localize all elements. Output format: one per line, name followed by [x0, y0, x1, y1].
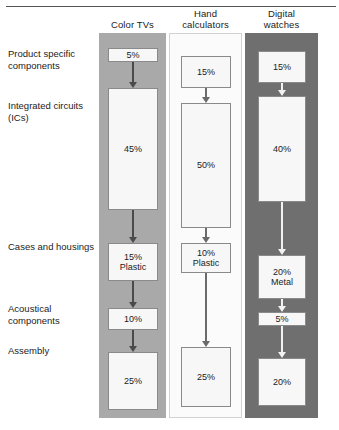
node-percentage-label: 20% — [273, 267, 291, 278]
column-header-color-tvs: Color TVs — [99, 19, 166, 30]
arrow-shaft — [281, 326, 283, 352]
node-percentage-label: 15% — [124, 252, 142, 263]
flow-node-hand-calculators-0: 15% — [181, 56, 231, 88]
arrow-shaft — [281, 299, 283, 306]
arrow-shaft — [132, 281, 134, 302]
flow-node-digital-watches-4: 20% — [258, 358, 306, 406]
column-header-hand-calculators: Hand calculators — [169, 8, 242, 30]
node-percentage-label: 50% — [197, 160, 215, 171]
node-percentage-label: 15% — [273, 62, 291, 73]
node-percentage-label: 5% — [126, 50, 139, 61]
row-label-acoustical: Acoustical components — [8, 303, 96, 326]
row-label-integrated-circuits: Integrated circuits (ICs) — [8, 100, 96, 123]
cost-structure-flow-diagram: Color TVs Hand calculators Digital watch… — [0, 0, 339, 430]
node-percentage-label: 10% — [124, 314, 142, 325]
column-header-line: Color TVs — [99, 19, 166, 30]
flow-node-digital-watches-2: 20%Metal — [258, 255, 306, 299]
flow-arrow-digital-watches — [278, 202, 287, 255]
flow-node-digital-watches-1: 40% — [258, 96, 306, 202]
flow-node-color-tvs-4: 25% — [108, 352, 158, 410]
arrow-shaft — [281, 202, 283, 249]
flow-arrow-color-tvs — [129, 62, 138, 88]
column-header-digital-watches: Digital watches — [245, 8, 318, 30]
flow-node-hand-calculators-2: 10%Plastic — [181, 243, 231, 273]
flow-arrow-hand-calculators — [202, 273, 211, 347]
node-percentage-label: 45% — [124, 144, 142, 155]
top-divider-rule — [6, 6, 336, 7]
node-material-label: Metal — [271, 277, 293, 288]
column-header-line: calculators — [169, 19, 242, 30]
column-header-line: watches — [245, 19, 318, 30]
arrow-shaft — [205, 228, 207, 237]
row-label-assembly: Assembly — [8, 345, 96, 357]
row-label-product-specific: Product specific components — [8, 48, 96, 71]
column-header-line: Hand — [169, 8, 242, 19]
flow-arrow-hand-calculators — [202, 88, 211, 103]
node-percentage-label: 40% — [273, 144, 291, 155]
arrow-shaft — [132, 62, 134, 82]
node-material-label: Plastic — [120, 262, 147, 273]
row-label-cases-housings: Cases and housings — [8, 241, 96, 253]
flow-node-hand-calculators-3: 25% — [181, 347, 231, 407]
arrow-shaft — [132, 330, 134, 346]
flow-arrow-digital-watches — [278, 326, 287, 358]
arrow-shaft — [132, 210, 134, 237]
flow-node-digital-watches-3: 5% — [258, 312, 306, 326]
node-percentage-label: 25% — [124, 376, 142, 387]
flow-node-hand-calculators-1: 50% — [181, 103, 231, 228]
arrow-shaft — [281, 83, 283, 90]
flow-arrow-digital-watches — [278, 299, 287, 312]
flow-arrow-color-tvs — [129, 330, 138, 352]
flow-node-color-tvs-1: 45% — [108, 88, 158, 210]
node-percentage-label: 10% — [197, 248, 215, 259]
arrow-shaft — [205, 88, 207, 97]
node-percentage-label: 25% — [197, 372, 215, 383]
column-header-line: Digital — [245, 8, 318, 19]
flow-node-digital-watches-0: 15% — [258, 51, 306, 83]
flow-node-color-tvs-2: 15%Plastic — [108, 243, 158, 281]
flow-node-color-tvs-0: 5% — [108, 48, 158, 62]
flow-node-color-tvs-3: 10% — [108, 308, 158, 330]
node-percentage-label: 5% — [275, 314, 288, 325]
flow-arrow-hand-calculators — [202, 228, 211, 243]
flow-arrow-color-tvs — [129, 210, 138, 243]
node-percentage-label: 20% — [273, 377, 291, 388]
arrow-shaft — [205, 273, 207, 341]
flow-arrow-digital-watches — [278, 83, 287, 96]
node-material-label: Plastic — [193, 258, 220, 269]
flow-arrow-color-tvs — [129, 281, 138, 308]
node-percentage-label: 15% — [197, 67, 215, 78]
